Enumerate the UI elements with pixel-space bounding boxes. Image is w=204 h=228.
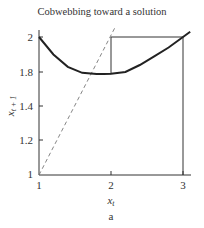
y-axis-label: xt + 1: [4, 96, 18, 118]
y-tick-label: 1.8: [19, 66, 33, 78]
x-axis-label: xt: [106, 194, 115, 208]
map-curve: [39, 32, 190, 74]
cobweb-path: [95, 37, 183, 175]
cobweb-chart: 2 1.8 1.4 1.2 1 1 2 3 xt xt + 1 a: [0, 0, 204, 228]
x-tick-label: 1: [36, 179, 42, 191]
x-tick-label: 2: [108, 179, 114, 191]
x-ticks: 1 2 3: [36, 171, 186, 191]
figure-caption: a: [109, 210, 114, 222]
y-tick-label: 1: [28, 168, 34, 180]
y-tick-label: 1.4: [19, 100, 33, 112]
y-tick-label: 1.2: [19, 134, 33, 146]
y-tick-label: 2: [28, 31, 34, 43]
x-tick-label: 3: [180, 179, 186, 191]
